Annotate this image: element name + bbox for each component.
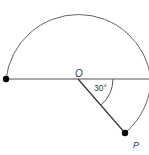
circle-diagram: O 30° P: [0, 0, 149, 155]
label-p: P: [133, 140, 139, 150]
left-endpoint: [3, 76, 9, 82]
point-p: [122, 130, 128, 136]
label-angle: 30°: [94, 83, 107, 93]
label-o: O: [75, 68, 83, 79]
lower-arc: [125, 79, 149, 133]
